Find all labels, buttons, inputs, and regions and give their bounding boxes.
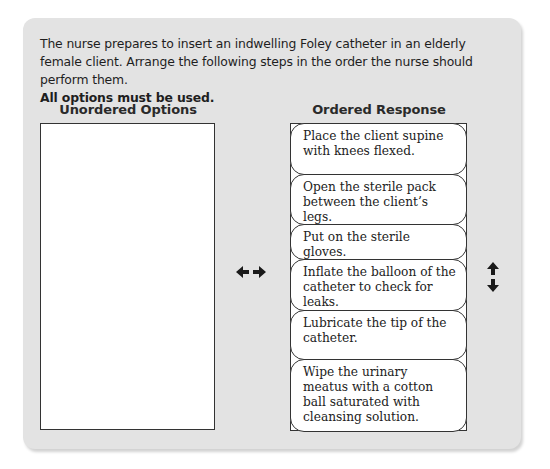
prompt-text: The nurse prepares to insert an indwelli… <box>40 36 473 87</box>
ordered-response-list[interactable]: Place the client supine with knees flexe… <box>290 123 467 431</box>
ordered-item-label: Lubricate the tip of the catheter. <box>303 316 447 345</box>
ordered-item-label: Open the sterile pack between the client… <box>303 180 436 224</box>
ordered-item-label: Inflate the balloon of the catheter to c… <box>303 265 456 309</box>
unordered-options-list[interactable] <box>40 123 215 430</box>
unordered-options-header: Unordered Options <box>39 102 217 117</box>
reorder-up-down-icon[interactable] <box>486 262 500 292</box>
ordered-item-label: Place the client supine with knees flexe… <box>303 129 443 158</box>
question-prompt: The nurse prepares to insert an indwelli… <box>40 35 510 107</box>
move-left-right-icon[interactable] <box>236 262 266 282</box>
ordered-item-4[interactable]: Inflate the balloon of the catheter to c… <box>290 259 467 311</box>
ordered-item-6[interactable]: Wipe the urinary meatus with a cotton ba… <box>290 359 467 432</box>
ordered-item-5[interactable]: Lubricate the tip of the catheter. <box>290 310 467 360</box>
ordered-item-label: Wipe the urinary meatus with a cotton ba… <box>303 365 433 424</box>
ordered-item-1[interactable]: Place the client supine with knees flexe… <box>290 123 467 175</box>
ordered-item-2[interactable]: Open the sterile pack between the client… <box>290 174 467 225</box>
ordered-response-header: Ordered Response <box>290 102 468 117</box>
ordered-item-label: Put on the sterile gloves. <box>303 230 410 259</box>
ordered-item-3[interactable]: Put on the sterile gloves. <box>290 224 467 260</box>
